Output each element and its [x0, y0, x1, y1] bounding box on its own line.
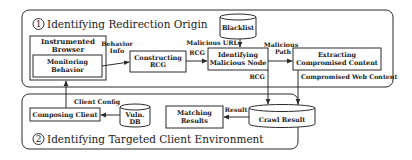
edge-malicious-url: Malicious URL [186, 39, 240, 47]
cylinder-top [120, 104, 150, 110]
edge-label: RCG [189, 49, 205, 56]
node-label: Malicious Node [210, 59, 267, 67]
edge-label: RCG [249, 73, 265, 80]
node-label: Results [181, 117, 208, 125]
node-blacklist-database: Blacklist [220, 14, 256, 39]
node-label: Blacklist [222, 24, 254, 32]
edge-label: Behavior [101, 40, 133, 47]
panel-title: Identifying Targeted Client Environment [47, 133, 264, 145]
panel-title: Identifying Redirection Origin [47, 18, 208, 30]
edge-label: Malicious [264, 41, 299, 48]
edge-label: Compromised Web Content [301, 73, 397, 81]
cylinder-top [249, 105, 315, 112]
node-constructing-rcg: Constructing RCG [130, 51, 186, 72]
node-matching-results: Matching Results [166, 106, 223, 128]
edge-label: Client Config [74, 98, 121, 106]
redirection-analysis-diagram: 1 Identifying Redirection Origin 2 Ident… [0, 0, 412, 160]
node-identifying-malicious-node: Identifying Malicious Node [208, 48, 268, 70]
cylinder-top [220, 14, 256, 20]
edge-label: Info [110, 47, 124, 54]
node-label: Compromised Content [296, 59, 378, 67]
node-label: Behavior [51, 66, 84, 74]
node-composing-client: Composing Client [30, 108, 100, 121]
edge-label: Path [275, 48, 292, 55]
node-label: RCG [150, 61, 167, 69]
node-vuln-db-database: Vuln. DB [120, 104, 150, 127]
step-number: 1 [36, 19, 42, 29]
node-label: Crawl Result [259, 116, 306, 124]
edge-label: Malicious URL [186, 39, 238, 46]
step-number: 2 [36, 134, 42, 144]
node-label: Composing Client [33, 111, 98, 119]
node-instrumented-browser: Instrumented Browser Monitoring Behavior [30, 36, 106, 80]
node-label: Browser [52, 45, 85, 54]
node-label: DB [129, 118, 141, 126]
edge-label: Result [225, 106, 248, 113]
node-extracting-compromised-content: Extracting Compromised Content [293, 48, 381, 70]
node-crawl-result-database: Crawl Result [249, 105, 315, 128]
